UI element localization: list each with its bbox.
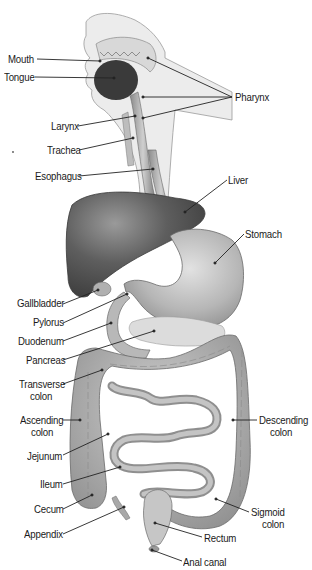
label-pancreas: Pancreas bbox=[26, 354, 65, 366]
leader-dot-pharynx bbox=[147, 57, 149, 59]
leader-dot-sigmoid-colon bbox=[215, 498, 217, 500]
leader-dot-appendix bbox=[123, 506, 125, 508]
leader-dot-gallbladder bbox=[97, 289, 99, 291]
leader-dot-rectum bbox=[154, 522, 156, 524]
label-ileum: Ileum bbox=[40, 478, 63, 490]
label-anal-canal: Anal canal bbox=[183, 556, 226, 568]
leader-dot-pylorus bbox=[126, 293, 128, 295]
leader-dot-mouth bbox=[99, 60, 101, 62]
tongue-shape bbox=[94, 60, 138, 100]
leader-dot-larynx bbox=[134, 115, 136, 117]
label-ascending-colon: Ascendingcolon bbox=[20, 414, 63, 438]
leader-line-liver bbox=[185, 180, 227, 212]
leader-dot-anal-canal bbox=[151, 549, 153, 551]
label-jejunum: Jejunum bbox=[27, 450, 62, 462]
label-duodenum: Duodenum bbox=[18, 335, 64, 347]
label-descending-colon: Descendingcolon bbox=[259, 414, 308, 438]
leader-dot-stomach bbox=[214, 262, 216, 264]
leader-dot-liver bbox=[184, 211, 186, 213]
leader-dot-ileum bbox=[119, 466, 121, 468]
label-esophagus: Esophagus bbox=[35, 170, 82, 182]
label-larynx: Larynx bbox=[51, 120, 79, 132]
leader-dot-cecum bbox=[91, 494, 93, 496]
label-gallbladder: Gallbladder bbox=[17, 297, 64, 309]
label-rectum: Rectum bbox=[204, 532, 236, 544]
leader-dot-pancreas bbox=[153, 330, 155, 332]
leader-dot-pharynx bbox=[142, 96, 144, 98]
rectum-shape bbox=[143, 490, 172, 546]
leader-dot-duodenum bbox=[110, 322, 112, 324]
stray-dot bbox=[12, 151, 14, 153]
label-stomach: Stomach bbox=[245, 228, 282, 240]
label-transverse-colon: Transversecolon bbox=[19, 378, 65, 402]
leader-dot-jejunum bbox=[107, 433, 109, 435]
label-pylorus: Pylorus bbox=[33, 316, 64, 328]
leader-dot-descending-colon bbox=[232, 419, 234, 421]
label-mouth: Mouth bbox=[8, 53, 34, 65]
leader-dot-trachea bbox=[132, 137, 134, 139]
leader-dot-esophagus bbox=[152, 168, 154, 170]
leader-dot-ascending-colon bbox=[79, 419, 81, 421]
gallbladder-shape bbox=[93, 282, 111, 296]
label-sigmoid-colon: Sigmoidcolon bbox=[251, 506, 285, 530]
label-appendix: Appendix bbox=[24, 528, 63, 540]
leader-dot-transverse-colon bbox=[101, 369, 103, 371]
leader-line-trachea bbox=[79, 138, 133, 150]
leader-line-duodenum bbox=[63, 323, 111, 341]
digestive-system-diagram: MouthTonguePharynxLarynxTracheaEsophagus… bbox=[0, 0, 312, 570]
label-tongue: Tongue bbox=[4, 71, 35, 83]
label-trachea: Trachea bbox=[47, 144, 81, 156]
label-cecum: Cecum bbox=[34, 503, 64, 515]
leader-line-anal-canal bbox=[152, 550, 182, 561]
small-intestine-shape bbox=[112, 386, 217, 494]
leader-dot-tongue bbox=[113, 77, 115, 79]
leader-line-appendix bbox=[63, 507, 124, 534]
leader-dot-pharynx bbox=[142, 117, 144, 119]
label-pharynx: Pharynx bbox=[235, 91, 269, 103]
label-liver: Liver bbox=[228, 174, 248, 186]
